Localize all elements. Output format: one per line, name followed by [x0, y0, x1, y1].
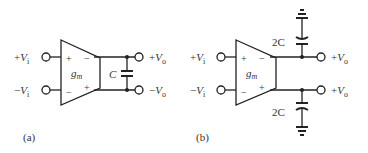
- amp-in-bottom-sign: −: [66, 87, 72, 98]
- amp-in-top-sign: +: [241, 53, 247, 64]
- top-capacitor-to-ground: 2C: [272, 10, 308, 57]
- input-terminal-plus: [42, 53, 50, 61]
- amp-in-top-sign: +: [66, 53, 72, 64]
- capacitor-bottom-label: 2C: [272, 106, 285, 118]
- panel-b: +Vi −Vi + − − + gm 2C: [190, 10, 348, 144]
- amp-gm-label: gm: [246, 67, 258, 81]
- panel-a-caption: (a): [23, 131, 36, 144]
- output-bottom-label: +Vo: [331, 84, 348, 99]
- input-terminal-minus: [217, 86, 225, 94]
- input-plus-label: +Vi: [190, 51, 206, 66]
- capacitor-label: C: [109, 68, 117, 80]
- input-minus-label: −Vi: [14, 84, 30, 99]
- bottom-capacitor-to-ground: 2C: [272, 90, 308, 135]
- panel-a: +Vi −Vi + − − + gm C +Vo −Vo (a): [14, 40, 166, 144]
- output-minus-label: −Vo: [149, 84, 166, 99]
- ota-capacitor-diagram: +Vi −Vi + − − + gm C +Vo −Vo (a): [0, 0, 368, 153]
- panel-b-caption: (b): [196, 131, 209, 144]
- output-terminal-minus: [135, 86, 143, 94]
- input-minus-label: −Vi: [190, 84, 206, 99]
- input-plus-label: +Vi: [14, 51, 30, 66]
- amp-out-bottom-sign: +: [259, 82, 265, 93]
- amp-in-bottom-sign: −: [241, 87, 247, 98]
- capacitor-top-label: 2C: [272, 36, 285, 48]
- output-plus-label: +Vo: [149, 51, 166, 66]
- input-terminal-minus: [42, 86, 50, 94]
- amp-out-top-sign: −: [84, 53, 90, 64]
- input-terminal-plus: [217, 53, 225, 61]
- output-terminal-plus: [135, 53, 143, 61]
- output-terminal-top: [317, 53, 325, 61]
- amp-out-top-sign: −: [259, 53, 265, 64]
- amp-out-bottom-sign: +: [84, 82, 90, 93]
- output-top-label: +Vo: [331, 51, 348, 66]
- amp-gm-label: gm: [71, 67, 83, 81]
- output-terminal-bottom: [317, 86, 325, 94]
